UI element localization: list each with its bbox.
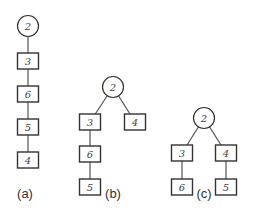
child-node: 5	[216, 179, 237, 195]
node-value: 6	[25, 89, 32, 100]
node-value: 5	[87, 182, 93, 193]
node-value: 4	[222, 148, 229, 159]
child-node: 3	[18, 53, 39, 69]
child-node: 6	[172, 179, 193, 195]
node-value: 4	[24, 155, 31, 166]
root-node: 2	[194, 108, 215, 129]
node-value: 2	[109, 82, 116, 93]
node-value: 3	[25, 56, 31, 67]
diagram-label: (b)	[105, 186, 121, 201]
node-value: 2	[200, 113, 207, 124]
child-node: 3	[80, 114, 101, 130]
child-node: 4	[18, 152, 39, 168]
tree-b: 23465(b)	[80, 77, 146, 201]
tree-a: 23654(a)	[17, 16, 38, 201]
child-node: 4	[216, 145, 237, 161]
child-node: 5	[18, 119, 39, 135]
tree-diagrams: 23654(a)23465(b)23465(c)	[0, 0, 257, 220]
child-node: 4	[125, 114, 146, 130]
node-value: 5	[25, 122, 31, 133]
child-node: 6	[80, 146, 101, 162]
root-node: 2	[18, 16, 39, 37]
node-value: 6	[179, 182, 186, 193]
node-value: 5	[223, 182, 229, 193]
child-node: 5	[80, 179, 101, 195]
node-value: 3	[179, 148, 185, 159]
node-value: 2	[24, 21, 31, 32]
diagram-label: (a)	[17, 186, 33, 201]
child-node: 6	[18, 86, 39, 102]
node-value: 4	[131, 117, 138, 128]
node-value: 3	[87, 117, 93, 128]
diagram-label: (c)	[196, 186, 211, 201]
tree-c: 23465(c)	[172, 108, 237, 201]
child-node: 3	[172, 145, 193, 161]
root-node: 2	[103, 77, 124, 98]
node-value: 6	[87, 149, 94, 160]
